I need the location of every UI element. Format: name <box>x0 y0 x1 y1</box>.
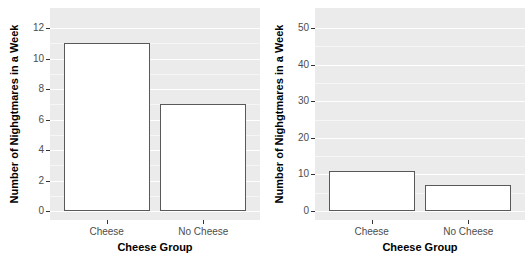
x-tick-label: No Cheese <box>443 226 493 237</box>
x-tick-label: No Cheese <box>178 226 228 237</box>
figure: Number of Nighgtmares in a Week Cheese G… <box>0 0 530 260</box>
x-axis-tick <box>107 220 108 224</box>
y-axis-tick <box>311 211 315 212</box>
y-tick-label: 10 <box>265 169 309 179</box>
major-gridline <box>315 65 525 66</box>
y-tick-label: 30 <box>265 96 309 106</box>
y-tick-label: 2 <box>0 176 44 186</box>
plot-panel <box>315 8 525 220</box>
y-tick-label: 0 <box>265 206 309 216</box>
y-tick-label: 4 <box>0 145 44 155</box>
y-tick-label: 0 <box>0 206 44 216</box>
bar-no-cheese <box>425 185 511 211</box>
x-axis-title: Cheese Group <box>315 241 525 253</box>
y-axis-tick <box>46 59 50 60</box>
minor-gridline <box>315 83 525 84</box>
bar-cheese <box>329 171 415 211</box>
major-gridline <box>315 101 525 102</box>
y-tick-label: 20 <box>265 133 309 143</box>
y-axis-tick <box>311 28 315 29</box>
major-gridline <box>315 211 525 212</box>
bar-chart-wide-scale: Number of Nighgtmares in a Week Cheese G… <box>265 0 530 260</box>
x-tick-label: Cheese <box>89 226 123 237</box>
y-tick-label: 10 <box>0 54 44 64</box>
bar-cheese <box>64 43 150 211</box>
y-axis-tick <box>311 138 315 139</box>
x-axis-tick <box>203 220 204 224</box>
y-axis-tick <box>46 89 50 90</box>
minor-gridline <box>315 120 525 121</box>
minor-gridline <box>315 156 525 157</box>
y-tick-label: 50 <box>265 23 309 33</box>
y-tick-label: 6 <box>0 115 44 125</box>
y-tick-label: 12 <box>0 23 44 33</box>
y-tick-label: 40 <box>265 60 309 70</box>
y-axis-tick <box>46 28 50 29</box>
y-axis-tick <box>46 150 50 151</box>
y-axis-tick <box>46 211 50 212</box>
x-axis-title: Cheese Group <box>50 241 260 253</box>
y-axis-tick <box>311 101 315 102</box>
major-gridline <box>315 28 525 29</box>
y-axis-tick <box>311 65 315 66</box>
bar-chart-narrow-scale: Number of Nighgtmares in a Week Cheese G… <box>0 0 265 260</box>
major-gridline <box>315 138 525 139</box>
y-tick-label: 8 <box>0 84 44 94</box>
y-axis-tick <box>46 181 50 182</box>
x-axis-tick <box>372 220 373 224</box>
bar-no-cheese <box>160 104 246 211</box>
plot-panel <box>50 8 260 220</box>
y-axis-tick <box>46 120 50 121</box>
minor-gridline <box>315 46 525 47</box>
y-axis-tick <box>311 174 315 175</box>
x-tick-label: Cheese <box>354 226 388 237</box>
major-gridline <box>50 211 260 212</box>
x-axis-tick <box>468 220 469 224</box>
major-gridline <box>50 28 260 29</box>
